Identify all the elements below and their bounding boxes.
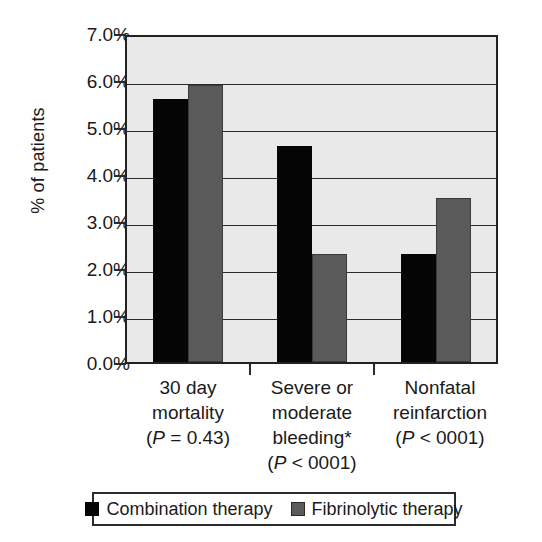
category-pvalue: (P < 0001) — [375, 425, 505, 450]
x-category-label-30-day-mortality: 30 day mortality (P = 0.43) — [133, 375, 243, 450]
x-category-label-severe-moderate-bleeding: Severe or moderate bleeding* (P < 0001) — [257, 375, 367, 475]
category-line-3: bleeding* — [257, 425, 367, 450]
p-letter: P — [402, 427, 415, 448]
category-pvalue: (P < 0001) — [257, 450, 367, 475]
gridline-6 — [127, 84, 496, 85]
category-line-1: Severe or — [257, 375, 367, 400]
legend-label-combination: Combination therapy — [106, 499, 272, 520]
bar-combination-30-day-mortality — [153, 99, 188, 362]
bar-fibrinolytic-nonfatal-reinfarction — [436, 198, 471, 362]
plot-area — [125, 35, 498, 364]
p-rest: < 0001) — [414, 427, 484, 448]
legend-entry-combination-therapy: Combination therapy — [85, 499, 272, 520]
legend-entry-fibrinolytic-therapy: Fibrinolytic therapy — [291, 499, 463, 520]
x-axis-separator-2 — [373, 364, 375, 375]
p-rest: = 0.43) — [165, 427, 230, 448]
bar-combination-nonfatal-reinfarction — [401, 254, 436, 362]
legend-label-fibrinolytic: Fibrinolytic therapy — [312, 499, 463, 520]
category-pvalue: (P = 0.43) — [133, 425, 243, 450]
x-axis-separator-1 — [249, 364, 251, 375]
category-line-1: Nonfatal — [375, 375, 505, 400]
legend-swatch-icon-fibrinolytic — [291, 502, 305, 516]
category-line-1: 30 day — [133, 375, 243, 400]
bar-combination-severe-moderate-bleeding — [277, 146, 312, 362]
chart-legend: Combination therapy Fibrinolytic therapy — [92, 492, 456, 526]
bar-fibrinolytic-severe-moderate-bleeding — [312, 254, 347, 362]
p-letter: P — [152, 427, 165, 448]
category-line-2: moderate — [257, 400, 367, 425]
bar-chart-figure: % of patients 7.0% 6.0% 5.0% 4.0% 3.0% 2… — [0, 0, 542, 542]
p-letter: P — [274, 452, 287, 473]
bar-fibrinolytic-30-day-mortality — [188, 85, 223, 362]
p-rest: < 0001) — [286, 452, 356, 473]
category-line-2: reinfarction — [375, 400, 505, 425]
legend-swatch-icon-combination — [85, 502, 99, 516]
category-line-2: mortality — [133, 400, 243, 425]
x-category-label-nonfatal-reinfarction: Nonfatal reinfarction (P < 0001) — [375, 375, 505, 450]
